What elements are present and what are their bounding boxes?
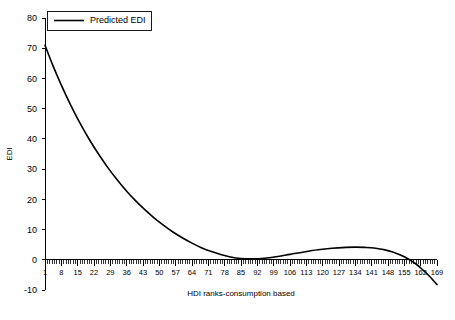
x-tick-label: 36 (122, 268, 130, 277)
chart-canvas: -1001020304050607080 1815222936435057647… (0, 0, 455, 320)
legend-label-predicted-edi: Predicted EDI (90, 15, 146, 25)
x-tick-label: 50 (155, 268, 163, 277)
x-tick-label: 106 (284, 268, 297, 277)
y-tick-label: 80 (27, 13, 37, 23)
y-axis-title: EDI (5, 147, 14, 160)
x-tick-label: 43 (139, 268, 147, 277)
y-tick-label: 40 (27, 134, 37, 144)
y-tick-label: 10 (27, 225, 37, 235)
x-tick-label: 78 (220, 268, 228, 277)
x-tick-label: 169 (431, 268, 444, 277)
y-tick-label: 30 (27, 164, 37, 174)
y-tick-label: 70 (27, 43, 37, 53)
x-tick-label: 99 (269, 268, 277, 277)
x-tick-label: 8 (59, 268, 63, 277)
x-axis-title: HDI ranks-consumption based (187, 289, 295, 298)
x-axis-minor-ticks (45, 260, 437, 266)
x-tick-label: 15 (73, 268, 81, 277)
y-tick-label: 0 (32, 255, 37, 265)
chart-container: -1001020304050607080 1815222936435057647… (0, 0, 455, 320)
y-tick-label: 50 (27, 104, 37, 114)
y-tick-label: -10 (24, 285, 37, 295)
x-tick-label: 29 (106, 268, 114, 277)
x-tick-label: 134 (349, 268, 362, 277)
x-tick-label: 85 (237, 268, 245, 277)
x-tick-label: 127 (333, 268, 346, 277)
x-tick-label: 120 (316, 268, 329, 277)
x-axis-tick-labels: 1815222936435057647178859299106113120127… (43, 268, 443, 277)
predicted-edi-line (45, 45, 437, 284)
x-tick-label: 92 (253, 268, 261, 277)
legend: Predicted EDI (47, 11, 151, 30)
x-tick-label: 141 (365, 268, 378, 277)
y-tick-label: 20 (27, 195, 37, 205)
x-tick-label: 71 (204, 268, 212, 277)
x-tick-label: 22 (90, 268, 98, 277)
y-tick-label: 60 (27, 74, 37, 84)
x-tick-label: 113 (300, 268, 312, 277)
y-axis-tick-labels: -1001020304050607080 (24, 13, 37, 295)
x-tick-label: 64 (188, 268, 196, 277)
x-tick-label: 155 (398, 268, 411, 277)
x-tick-label: 57 (171, 268, 179, 277)
x-tick-label: 148 (382, 268, 395, 277)
